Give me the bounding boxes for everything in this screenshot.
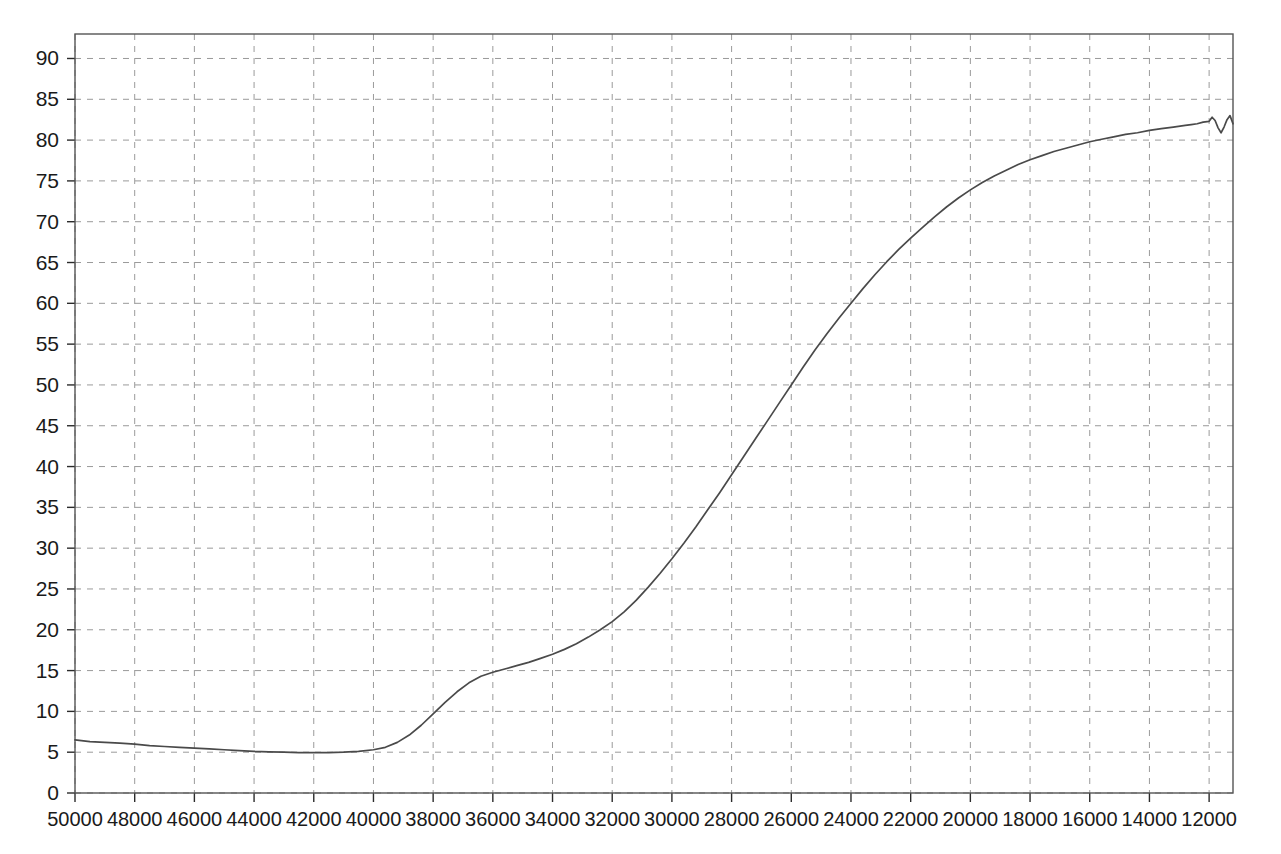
x-tick-label: 40000 (346, 808, 402, 830)
y-tick-label: 35 (36, 495, 59, 518)
y-tick-label: 10 (36, 699, 59, 722)
x-tick-label: 50000 (47, 808, 103, 830)
chart-background (0, 0, 1281, 854)
x-tick-label: 22000 (883, 808, 939, 830)
x-tick-label: 38000 (405, 808, 461, 830)
x-tick-label: 28000 (704, 808, 760, 830)
y-tick-label: 40 (36, 455, 59, 478)
y-tick-label: 55 (36, 332, 59, 355)
y-tick-label: 45 (36, 414, 59, 437)
y-tick-label: 0 (47, 781, 59, 804)
y-tick-label: 5 (47, 740, 59, 763)
x-tick-label: 30000 (644, 808, 700, 830)
y-tick-label: 60 (36, 291, 59, 314)
x-tick-label: 44000 (226, 808, 282, 830)
y-tick-label: 65 (36, 251, 59, 274)
line-chart: 051015202530354045505560657075808590 500… (0, 0, 1281, 854)
y-tick-label: 80 (36, 128, 59, 151)
x-tick-label: 12000 (1181, 808, 1237, 830)
x-tick-label: 46000 (167, 808, 223, 830)
x-tick-label: 20000 (943, 808, 999, 830)
y-tick-label: 30 (36, 536, 59, 559)
y-tick-label: 50 (36, 373, 59, 396)
y-tick-label: 85 (36, 87, 59, 110)
x-tick-label: 42000 (286, 808, 342, 830)
y-tick-label: 75 (36, 169, 59, 192)
x-tick-label: 48000 (107, 808, 163, 830)
y-tick-label: 20 (36, 618, 59, 641)
x-tick-label: 34000 (525, 808, 581, 830)
y-tick-label: 25 (36, 577, 59, 600)
x-tick-label: 16000 (1062, 808, 1118, 830)
x-tick-label: 14000 (1122, 808, 1178, 830)
x-tick-label: 32000 (584, 808, 640, 830)
y-tick-label: 70 (36, 210, 59, 233)
y-tick-label: 15 (36, 659, 59, 682)
x-tick-label: 18000 (1002, 808, 1058, 830)
x-tick-label: 26000 (763, 808, 819, 830)
chart-container: 051015202530354045505560657075808590 500… (0, 0, 1281, 854)
x-tick-label: 24000 (823, 808, 879, 830)
y-tick-label: 90 (36, 46, 59, 69)
x-tick-label: 36000 (465, 808, 521, 830)
